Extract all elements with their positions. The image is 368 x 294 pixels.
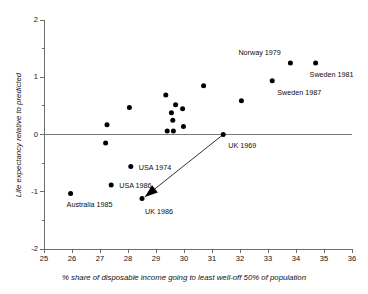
- data-point: [201, 83, 206, 88]
- data-points-group: [68, 60, 318, 201]
- data-point: [239, 98, 244, 103]
- x-tick-label: 33: [264, 255, 272, 263]
- data-point: [163, 92, 168, 97]
- point-label: USA 1974: [139, 164, 171, 171]
- x-tick-label: 26: [68, 255, 76, 263]
- y-tick-label: -2: [0, 245, 38, 253]
- y-axis-title: Life expectancy relative to predicted: [14, 72, 23, 196]
- point-label: Sweden 1987: [277, 89, 321, 96]
- data-point: [109, 182, 114, 187]
- x-tick-label: 34: [292, 255, 300, 263]
- data-point: [221, 132, 226, 137]
- data-point: [128, 164, 133, 169]
- axes-group: [40, 20, 352, 253]
- x-tick-label: 27: [96, 255, 104, 263]
- data-point: [165, 129, 170, 134]
- point-label: UK 1969: [228, 142, 256, 149]
- scatter-chart: 252627282930313233343536 -2-1012 Austral…: [0, 0, 368, 294]
- data-point: [105, 122, 110, 127]
- x-tick-label: 30: [180, 255, 188, 263]
- x-tick-label: 29: [152, 255, 160, 263]
- point-label: UK 1986: [145, 208, 173, 215]
- plot-area: [0, 0, 368, 294]
- data-point: [288, 60, 293, 65]
- point-label: Australia 1985: [67, 201, 113, 208]
- x-tick-label: 35: [320, 255, 328, 263]
- data-point: [140, 196, 145, 201]
- data-point: [68, 191, 73, 196]
- data-point: [169, 110, 174, 115]
- y-tick-label: 2: [0, 16, 38, 24]
- data-point: [127, 105, 132, 110]
- data-point: [171, 129, 176, 134]
- point-label: Sweden 1981: [310, 71, 354, 78]
- x-tick-label: 28: [124, 255, 132, 263]
- data-point: [103, 141, 108, 146]
- data-point: [270, 78, 275, 83]
- data-point: [173, 102, 178, 107]
- x-tick-label: 32: [236, 255, 244, 263]
- x-tick-label: 31: [208, 255, 216, 263]
- point-label: Norway 1979: [238, 49, 280, 56]
- x-axis-title: % share of disposable income going to le…: [0, 273, 368, 282]
- data-point: [170, 118, 175, 123]
- data-point: [181, 124, 186, 129]
- point-label: USA 1986: [119, 182, 151, 189]
- x-tick-label: 36: [348, 255, 356, 263]
- data-point: [313, 60, 318, 65]
- x-tick-label: 25: [40, 255, 48, 263]
- data-point: [180, 106, 185, 111]
